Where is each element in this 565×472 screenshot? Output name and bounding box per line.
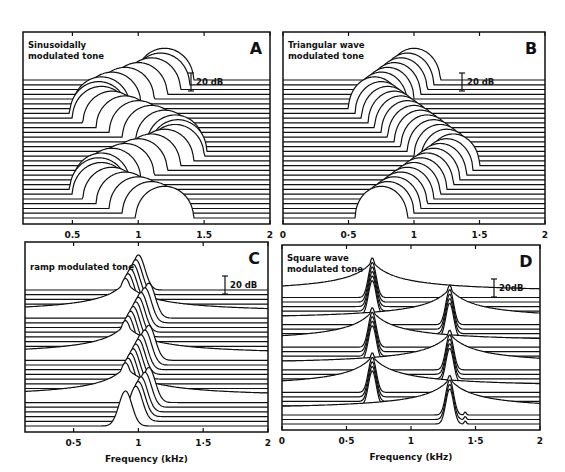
panel-title: Square wave xyxy=(287,253,349,263)
scale-bar-label: 20 dB xyxy=(467,77,494,87)
x-tick-label: 1.5 xyxy=(196,230,212,240)
panel-c: 0·511·52ramp modulated toneC20 dBFrequen… xyxy=(23,242,271,464)
panel-title: Triangular wave xyxy=(288,40,365,50)
panel-a: 0.511.52Sinusoidallymodulated toneA20 dB xyxy=(21,32,273,240)
x-tick-label: 2 xyxy=(542,230,548,240)
x-tick-label: 2 xyxy=(267,230,273,240)
scale-bar-label: 20 dB xyxy=(230,280,257,290)
x-tick-label: 1 xyxy=(408,436,414,446)
panel-b: 00·511·52Triangular wavemodulated toneB2… xyxy=(280,32,548,240)
figure-canvas: 0.511.52Sinusoidallymodulated toneA20 dB… xyxy=(0,0,565,472)
panel-title: Sinusoidally xyxy=(28,40,87,50)
x-tick-label: 0·5 xyxy=(66,438,82,448)
scale-bar-label: 20 dB xyxy=(196,77,223,87)
x-tick-label: 1 xyxy=(135,438,141,448)
x-tick-label: 1·5 xyxy=(468,436,484,446)
x-tick-label: 0·5 xyxy=(341,230,357,240)
x-tick-label: 0 xyxy=(279,436,285,446)
waterfall-traces xyxy=(281,48,547,223)
panel-title: ramp modulated tone xyxy=(30,262,134,272)
x-tick-label: 1 xyxy=(411,230,417,240)
x-tick-label: 1·5 xyxy=(472,230,488,240)
panel-title: modulated tone xyxy=(287,264,363,274)
x-tick-label: 0·5 xyxy=(339,436,355,446)
panel-title: modulated tone xyxy=(28,51,104,61)
x-tick-label: 2 xyxy=(537,436,543,446)
panel-letter: C xyxy=(248,249,260,268)
x-axis-label: Frequency (kHz) xyxy=(105,454,188,464)
x-tick-label: 1·5 xyxy=(195,438,211,448)
x-tick-label: 1 xyxy=(135,230,141,240)
panel-letter: B xyxy=(525,39,537,58)
x-tick-label: 0 xyxy=(280,230,286,240)
panel-letter: A xyxy=(250,39,263,58)
x-tick-label: 2 xyxy=(265,438,271,448)
x-axis-label: Frequency (kHz) xyxy=(370,452,453,462)
panel-title: modulated tone xyxy=(288,51,364,61)
panel-d: 00·511·52Square wavemodulated toneD20dBF… xyxy=(279,245,543,462)
x-tick-label: 0.5 xyxy=(64,230,80,240)
panel-letter: D xyxy=(519,252,532,271)
waterfall-traces xyxy=(21,48,272,223)
scale-bar-label: 20dB xyxy=(499,283,523,293)
